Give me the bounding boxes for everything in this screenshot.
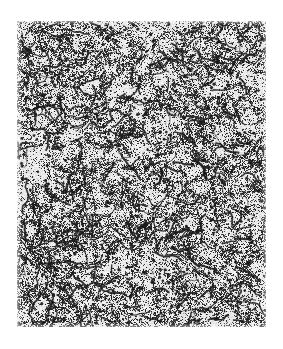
- micrograph-image: [17, 21, 266, 327]
- figure-root: [0, 0, 283, 349]
- micrograph-plate: [17, 21, 266, 327]
